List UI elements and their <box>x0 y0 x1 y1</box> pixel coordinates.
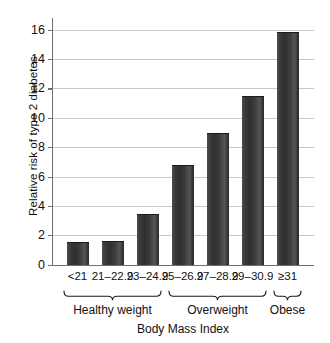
y-tick-label: 6 <box>38 170 45 184</box>
y-axis-title: Relative risk of type 2 diabetes <box>27 11 39 261</box>
y-axis-line <box>52 18 53 266</box>
y-tick-label: 0 <box>38 258 45 272</box>
y-tick-mark <box>48 147 52 148</box>
y-tick-label: 8 <box>38 140 45 154</box>
y-tick-label: 10 <box>31 111 45 125</box>
gridline <box>53 30 314 31</box>
x-tick-label: 29–30.9 <box>232 270 274 282</box>
y-tick-mark <box>48 206 52 207</box>
x-axis-title: Body Mass Index <box>52 322 314 336</box>
gridline <box>53 88 314 89</box>
group-brace <box>273 290 302 301</box>
bar <box>242 96 264 264</box>
bar <box>137 214 159 265</box>
gridline <box>53 59 314 60</box>
bar <box>277 32 299 265</box>
y-tick-label: 16 <box>31 23 45 37</box>
y-tick-mark <box>48 118 52 119</box>
group-brace <box>63 290 162 301</box>
y-tick-mark <box>48 59 52 60</box>
group-label: Overweight <box>187 303 248 317</box>
y-tick-mark <box>48 177 52 178</box>
y-tick-label: 14 <box>31 52 45 66</box>
gridline <box>53 118 314 119</box>
y-tick-mark <box>48 265 52 266</box>
y-tick-label: 4 <box>38 199 45 213</box>
y-tick-label: 2 <box>38 228 45 242</box>
x-axis-line <box>52 265 314 266</box>
group-label: Obese <box>270 303 305 317</box>
group-brace <box>168 290 267 301</box>
chart-figure: Relative risk of type 2 diabetes 0246810… <box>0 0 330 343</box>
bar <box>102 241 124 265</box>
plot-area: 0246810121416 <2121–22.923–24.925–26.927… <box>52 18 314 266</box>
x-tick-label: ≥31 <box>278 270 297 282</box>
y-tick-mark <box>48 88 52 89</box>
y-tick-mark <box>48 30 52 31</box>
bar <box>172 165 194 264</box>
x-tick-label: <21 <box>68 270 88 282</box>
group-label: Healthy weight <box>73 303 152 317</box>
gridline <box>53 147 314 148</box>
y-tick-mark <box>48 235 52 236</box>
y-tick-label: 12 <box>31 81 45 95</box>
bar <box>67 242 89 265</box>
bar <box>207 133 229 265</box>
